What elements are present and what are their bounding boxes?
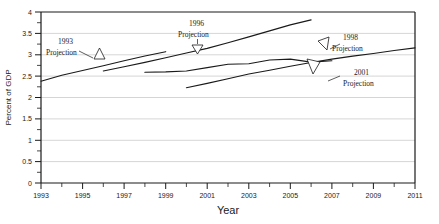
ann-2001-label: Projection	[343, 79, 374, 88]
y-tick-label: 3.5	[22, 30, 32, 37]
x-axis-title: Year	[217, 204, 240, 216]
y-axis-tick-labels: 4 3.5 3 2.5 2 1.5 1 0.5 0	[22, 9, 32, 187]
y-tick-label: 3	[28, 51, 32, 58]
ann-1996-year: 1996	[189, 19, 204, 28]
ann-1993-label: Projection	[46, 48, 77, 57]
series-line-1998-projection	[145, 59, 332, 72]
x-tick-label: 2001	[199, 192, 215, 199]
x-tick-label: 1999	[158, 192, 174, 199]
y-tick-label: 0.5	[22, 158, 32, 165]
x-tick-label: 2007	[324, 192, 340, 199]
x-tick-label: 1997	[116, 192, 132, 199]
gdp-projections-line-chart: 4 3.5 3 2.5 2 1.5 1 0.5 0 Percent of GDP	[0, 0, 439, 224]
y-tick-label: 2	[28, 94, 32, 101]
x-tick-label: 2009	[366, 192, 382, 199]
x-tick-label: 2011	[407, 192, 422, 199]
ann-1998-year: 1998	[343, 33, 358, 42]
ann-1993-projection: 1993 Projection	[46, 37, 105, 59]
y-tick-label: 1.5	[22, 115, 32, 122]
y-axis-title: Percent of GDP	[4, 69, 13, 125]
y-tick-label: 1	[28, 137, 32, 144]
x-tick-label: 1995	[75, 192, 91, 199]
chart-container: 4 3.5 3 2.5 2 1.5 1 0.5 0 Percent of GDP	[0, 0, 439, 224]
x-tick-label: 2003	[241, 192, 257, 199]
y-tick-label: 4	[28, 9, 32, 16]
ann-2001-projection: 2001 Projection	[307, 59, 374, 88]
y-tick-label: 2.5	[22, 73, 32, 80]
x-axis-ticks	[41, 183, 415, 189]
ann-2001-year: 2001	[354, 68, 369, 77]
ann-1993-year: 1993	[58, 37, 73, 46]
x-axis-tick-labels: 1993 1995 1997 1999 2001 2003 2005 2007 …	[33, 192, 422, 199]
x-tick-label: 2005	[283, 192, 299, 199]
series-line-2001-projection	[186, 48, 415, 88]
ann-1998-projection: 1998 Projection	[318, 33, 363, 53]
x-tick-label: 1993	[33, 192, 49, 199]
series-line-1996-projection	[103, 20, 311, 71]
y-axis-ticks	[35, 12, 41, 183]
y-tick-label: 0	[28, 180, 32, 187]
ann-1996-label: Projection	[178, 30, 209, 39]
